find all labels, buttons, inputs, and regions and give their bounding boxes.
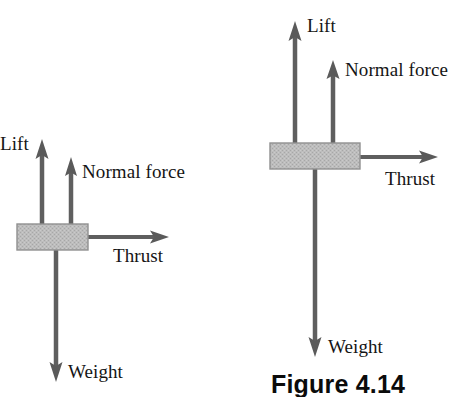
aircraft-body-right [270,143,360,169]
weight-arrow-right [309,169,322,357]
force-label-thrust-right: Thrust [385,169,435,188]
force-label-thrust-left: Thrust [113,246,163,265]
force-label-lift-left: Lift [0,134,29,153]
force-label-normal-force-right: Normal force [345,60,448,79]
figure-page: Lift Normal force Thrust Weight Lift Nor… [0,0,456,397]
normal-force-arrow-right [327,60,340,143]
lift-arrow-left [36,139,49,224]
aircraft-body-left [17,224,88,250]
force-label-normal-force-left: Normal force [82,162,185,181]
thrust-arrow-right [358,151,438,164]
normal-force-arrow-left [65,157,77,224]
force-label-lift-right: Lift [307,16,336,35]
figure-caption: Figure 4.14 [271,372,405,397]
lift-arrow-right [289,21,302,143]
force-label-weight-left: Weight [68,362,123,381]
thrust-arrow-left [86,231,169,244]
force-label-weight-right: Weight [328,337,383,356]
weight-arrow-left [50,250,63,382]
